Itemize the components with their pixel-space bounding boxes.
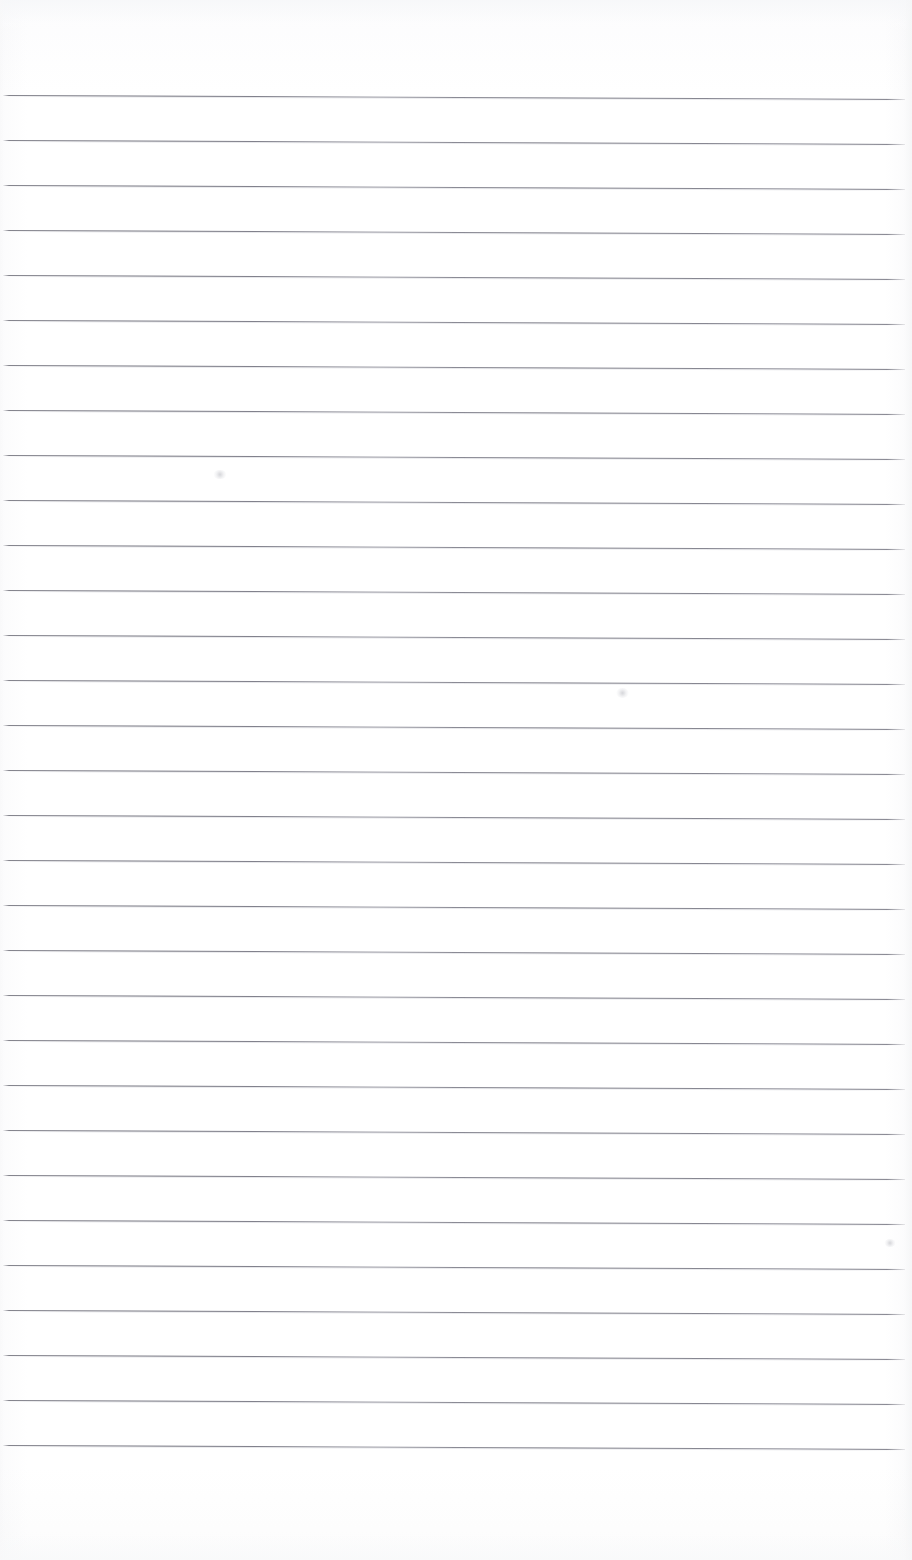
rule-line [3, 1310, 905, 1316]
rule-line [3, 905, 905, 911]
rule-line [3, 320, 905, 326]
rule-line [3, 1355, 905, 1361]
rule-line [3, 410, 905, 416]
ruled-lines-layer [0, 0, 912, 1560]
scanned-page [0, 0, 912, 1560]
rule-line [3, 1265, 905, 1271]
rule-line [3, 770, 905, 776]
rule-line [3, 365, 905, 371]
rule-line [3, 725, 905, 731]
rule-line [3, 500, 905, 506]
rule-line [3, 1445, 905, 1451]
rule-line [3, 140, 905, 146]
rule-line [3, 1085, 905, 1091]
rule-line [3, 1175, 905, 1181]
rule-line [3, 1220, 905, 1226]
rule-line [3, 455, 905, 461]
rule-line [3, 545, 905, 551]
rule-line [3, 95, 905, 101]
rule-line [3, 590, 905, 596]
rule-line [3, 230, 905, 236]
rule-line [3, 635, 905, 641]
rule-line [3, 680, 905, 686]
rule-line [3, 1040, 905, 1046]
rule-line [3, 185, 905, 191]
rule-line [3, 815, 905, 821]
rule-line [3, 275, 905, 281]
rule-line [3, 950, 905, 956]
rule-line [3, 1400, 905, 1406]
rule-line [3, 860, 905, 866]
rule-line [3, 1130, 905, 1136]
rule-line [3, 995, 905, 1001]
